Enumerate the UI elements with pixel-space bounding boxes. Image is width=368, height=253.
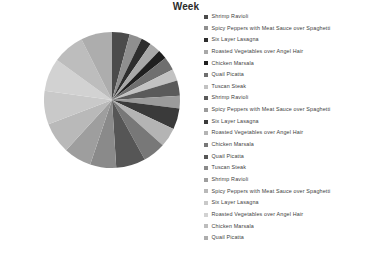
legend-swatch-icon bbox=[204, 143, 208, 147]
legend-item-label: Roasted Vegetables over Angel Hair bbox=[212, 45, 304, 58]
legend-item[interactable]: Chicken Marsala bbox=[204, 139, 368, 151]
legend-item[interactable]: Tuscan Steak bbox=[204, 162, 368, 174]
legend-item[interactable]: Spicy Peppers with Meat Sauce over Spagh… bbox=[204, 186, 368, 198]
legend-item-label: Six Layer Lasagna bbox=[212, 197, 259, 210]
legend-swatch-icon bbox=[204, 73, 208, 77]
legend-item[interactable]: Shrimp Ravioli bbox=[204, 92, 368, 104]
legend-item[interactable]: Roasted Vegetables over Angel Hair bbox=[204, 127, 368, 139]
legend-swatch-icon bbox=[204, 61, 208, 65]
legend-swatch-icon bbox=[204, 108, 208, 112]
legend-swatch-icon bbox=[204, 50, 208, 54]
legend-swatch-icon bbox=[204, 201, 208, 205]
legend-item-label: Shrimp Ravioli bbox=[212, 174, 249, 187]
legend-item-label: Spicy Peppers with Meat Sauce over Spagh… bbox=[212, 104, 331, 117]
legend-swatch-icon bbox=[204, 213, 208, 217]
pie-chart-plot-area bbox=[44, 16, 184, 184]
legend-swatch-icon bbox=[204, 96, 208, 100]
legend-item-label: Chicken Marsala bbox=[212, 139, 254, 152]
pie-chart-figure: Week Shrimp RavioliSpicy Peppers with Me… bbox=[0, 0, 368, 253]
legend-swatch-icon bbox=[204, 85, 208, 89]
legend-item[interactable]: Spicy Peppers with Meat Sauce over Spagh… bbox=[204, 23, 368, 35]
legend-item-label: Quail Picatta bbox=[212, 69, 245, 82]
legend-swatch-icon bbox=[204, 26, 208, 30]
legend-item-label: Shrimp Ravioli bbox=[212, 11, 249, 24]
legend-item[interactable]: Shrimp Ravioli bbox=[204, 174, 368, 186]
legend-swatch-icon bbox=[204, 166, 208, 170]
legend-item[interactable]: Six Layer Lasagna bbox=[204, 34, 368, 46]
legend-item[interactable]: Shrimp Ravioli bbox=[204, 11, 368, 23]
legend-swatch-icon bbox=[204, 120, 208, 124]
pie-chart-svg bbox=[44, 16, 184, 184]
legend-swatch-icon bbox=[204, 178, 208, 182]
legend-item[interactable]: Chicken Marsala bbox=[204, 58, 368, 70]
legend-item[interactable]: Quail Picatta bbox=[204, 232, 368, 244]
legend-swatch-icon bbox=[204, 224, 208, 228]
legend-swatch-icon bbox=[204, 155, 208, 159]
legend-item-label: Quail Picatta bbox=[212, 232, 245, 245]
legend-item-label: Roasted Vegetables over Angel Hair bbox=[212, 208, 304, 221]
legend-swatch-icon bbox=[204, 15, 208, 19]
legend-item[interactable]: Spicy Peppers with Meat Sauce over Spagh… bbox=[204, 104, 368, 116]
chart-legend: Shrimp RavioliSpicy Peppers with Meat Sa… bbox=[204, 11, 368, 251]
legend-swatch-icon bbox=[204, 131, 208, 135]
pie-slice-group bbox=[44, 32, 180, 168]
legend-item[interactable]: Chicken Marsala bbox=[204, 221, 368, 233]
legend-item[interactable]: Quail Picatta bbox=[204, 69, 368, 81]
legend-item[interactable]: Roasted Vegetables over Angel Hair bbox=[204, 46, 368, 58]
legend-item-label: Six Layer Lasagna bbox=[212, 34, 259, 47]
legend-swatch-icon bbox=[204, 38, 208, 42]
legend-item[interactable]: Six Layer Lasagna bbox=[204, 197, 368, 209]
legend-swatch-icon bbox=[204, 236, 208, 240]
legend-item[interactable]: Roasted Vegetables over Angel Hair bbox=[204, 209, 368, 221]
legend-swatch-icon bbox=[204, 189, 208, 193]
